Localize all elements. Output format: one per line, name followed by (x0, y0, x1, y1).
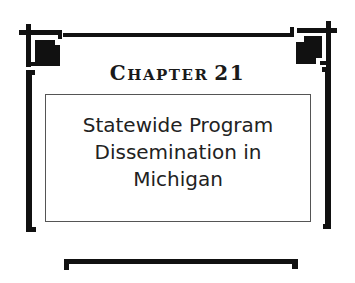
ornament-tl-tick (58, 30, 62, 39)
top-rule (63, 33, 291, 37)
chapter-number: 21 (214, 61, 245, 85)
chapter-title-line-2: Dissemination in (45, 139, 311, 166)
ornament-tl-horizontal (19, 30, 59, 35)
ornament-tr-tick (290, 27, 294, 37)
bottom-rule-right-drop (292, 259, 298, 269)
chapter-title-line-3: Michigan (45, 166, 311, 193)
left-bracket-foot (26, 227, 36, 232)
ornament-tr-horizontal (297, 28, 337, 33)
bottom-rule-left-drop (64, 259, 69, 270)
chapter-label-rest: HAPTER (127, 66, 208, 84)
ornament-tr-square-offset (304, 36, 322, 58)
chapter-label-initial: C (110, 61, 127, 85)
right-bracket-foot (323, 224, 331, 229)
right-bracket-bar (325, 67, 331, 229)
chapter-title: Statewide Program Dissemination in Michi… (45, 112, 311, 193)
left-bracket-bar (26, 70, 32, 232)
chapter-heading: CHAPTER21 (0, 61, 355, 85)
bottom-rule-bar (64, 259, 298, 264)
chapter-title-line-1: Statewide Program (45, 112, 311, 139)
